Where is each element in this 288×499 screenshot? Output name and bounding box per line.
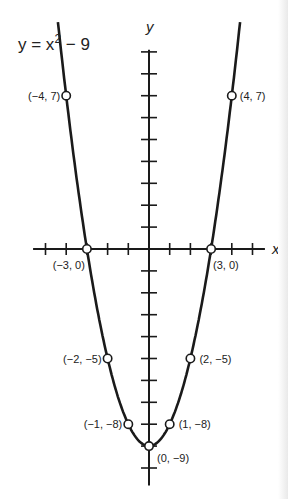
point-label: (−3, 0) [53,259,85,271]
data-point [145,442,153,450]
data-point [228,92,236,100]
data-point [166,420,174,428]
point-label: (2, −5) [199,353,231,365]
page-edge-shadow [278,0,288,499]
point-label: (3, 0) [213,259,239,271]
data-point [124,420,132,428]
point-label: (−4, 7) [28,90,60,102]
data-point [62,92,70,100]
equation-label: y = x2 − 9 [18,32,90,54]
data-point [103,354,111,362]
point-label: (4, 7) [240,90,266,102]
data-point [186,354,194,362]
labeled-points: (−4, 7)(−3, 0)(−2, −5)(−1, −8)(0, −9)(1,… [28,90,265,464]
data-point [83,245,91,253]
data-point [207,245,215,253]
point-label: (−1, −8) [84,418,123,430]
y-axis-label: y [145,18,155,35]
point-label: (−2, −5) [63,353,102,365]
point-label: (0, −9) [157,452,189,464]
parabola-plot: (−4, 7)(−3, 0)(−2, −5)(−1, −8)(0, −9)(1,… [0,0,288,499]
point-label: (1, −8) [179,418,211,430]
